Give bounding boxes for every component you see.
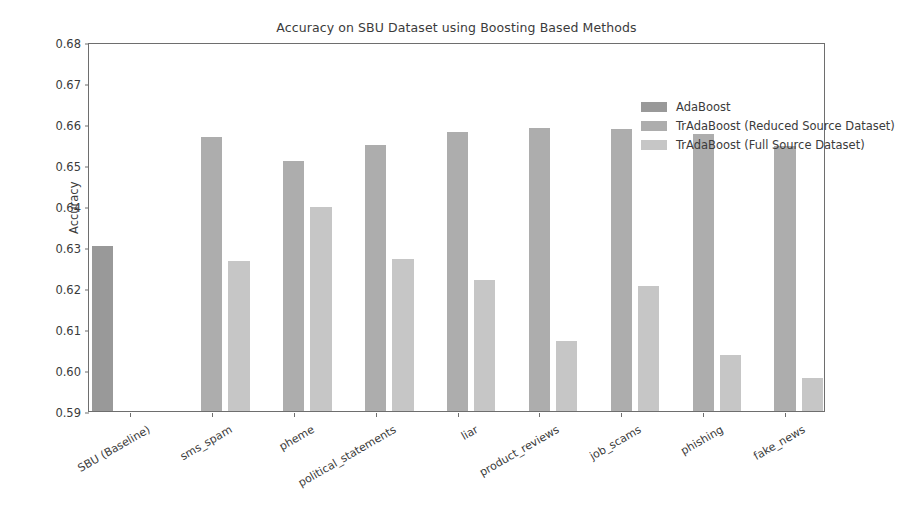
x-tick-mark xyxy=(539,413,540,417)
x-tick-mark xyxy=(785,413,786,417)
legend-swatch-icon xyxy=(641,140,667,150)
bar xyxy=(201,137,222,411)
y-tick-mark xyxy=(85,290,89,291)
bar xyxy=(774,146,795,411)
x-tick-label: sms_spam xyxy=(55,423,235,530)
x-tick-label: pheme xyxy=(137,423,317,530)
x-tick-mark xyxy=(458,413,459,417)
y-tick-label: 0.59 xyxy=(35,406,81,420)
y-tick-mark xyxy=(85,208,89,209)
bar xyxy=(802,378,823,411)
y-tick-mark xyxy=(85,167,89,168)
y-tick-mark xyxy=(85,249,89,250)
bar xyxy=(474,280,495,411)
bar xyxy=(638,286,659,411)
plot-area: Accuracy 0.590.600.610.620.630.640.650.6… xyxy=(88,43,825,412)
legend-label: AdaBoost xyxy=(676,100,730,114)
x-tick-mark xyxy=(212,413,213,417)
x-tick-mark xyxy=(621,413,622,417)
x-tick-label: political_statements xyxy=(218,423,398,530)
y-tick-label: 0.68 xyxy=(35,37,81,51)
legend-item[interactable]: TrAdaBoost (Full Source Dataset) xyxy=(641,136,895,153)
legend-item[interactable]: AdaBoost xyxy=(641,98,895,115)
bar xyxy=(310,207,331,411)
bar xyxy=(693,134,714,411)
y-tick-label: 0.64 xyxy=(35,201,81,215)
bar xyxy=(392,259,413,411)
bar xyxy=(447,132,468,411)
y-tick-mark xyxy=(85,331,89,332)
chart-legend: AdaBoostTrAdaBoost (Reduced Source Datas… xyxy=(637,96,899,157)
y-tick-label: 0.67 xyxy=(35,78,81,92)
bar xyxy=(556,341,577,411)
y-tick-label: 0.60 xyxy=(35,365,81,379)
bar xyxy=(92,246,113,411)
y-tick-label: 0.66 xyxy=(35,119,81,133)
x-tick-label: job_scams xyxy=(464,423,644,530)
x-tick-mark xyxy=(376,413,377,417)
y-tick-mark xyxy=(85,413,89,414)
legend-item[interactable]: TrAdaBoost (Reduced Source Dataset) xyxy=(641,117,895,134)
x-tick-mark xyxy=(703,413,704,417)
y-tick-mark xyxy=(85,85,89,86)
y-tick-mark xyxy=(85,372,89,373)
bar xyxy=(283,161,304,412)
bar xyxy=(720,355,741,411)
legend-label: TrAdaBoost (Full Source Dataset) xyxy=(676,138,865,152)
legend-label: TrAdaBoost (Reduced Source Dataset) xyxy=(676,119,895,133)
legend-swatch-icon xyxy=(641,102,667,112)
x-tick-label: fake_news xyxy=(628,423,808,530)
y-tick-label: 0.65 xyxy=(35,160,81,174)
bar xyxy=(228,261,249,411)
x-tick-mark xyxy=(130,413,131,417)
x-tick-label: phishing xyxy=(546,423,726,530)
legend-swatch-icon xyxy=(641,121,667,131)
x-tick-mark xyxy=(294,413,295,417)
y-tick-label: 0.62 xyxy=(35,283,81,297)
bar xyxy=(529,128,550,411)
bar xyxy=(611,129,632,411)
y-tick-label: 0.63 xyxy=(35,242,81,256)
y-tick-mark xyxy=(85,126,89,127)
bar xyxy=(365,145,386,411)
page-title: Accuracy on SBU Dataset using Boosting B… xyxy=(88,20,825,35)
y-tick-label: 0.61 xyxy=(35,324,81,338)
y-tick-mark xyxy=(85,44,89,45)
